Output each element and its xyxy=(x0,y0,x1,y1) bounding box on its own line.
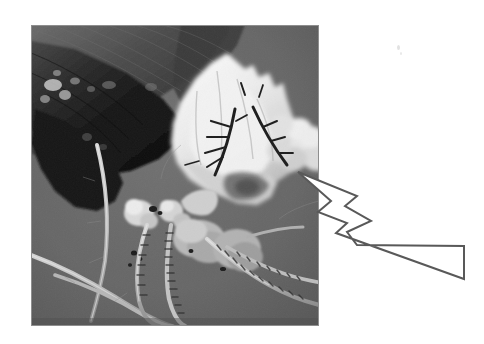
dust-speck-2 xyxy=(400,52,402,55)
pointer-arrow xyxy=(298,172,464,279)
specimen-photo xyxy=(31,25,319,326)
photo-canvas xyxy=(31,25,319,326)
dust-speck-1 xyxy=(397,45,400,50)
figure-root xyxy=(0,0,484,344)
